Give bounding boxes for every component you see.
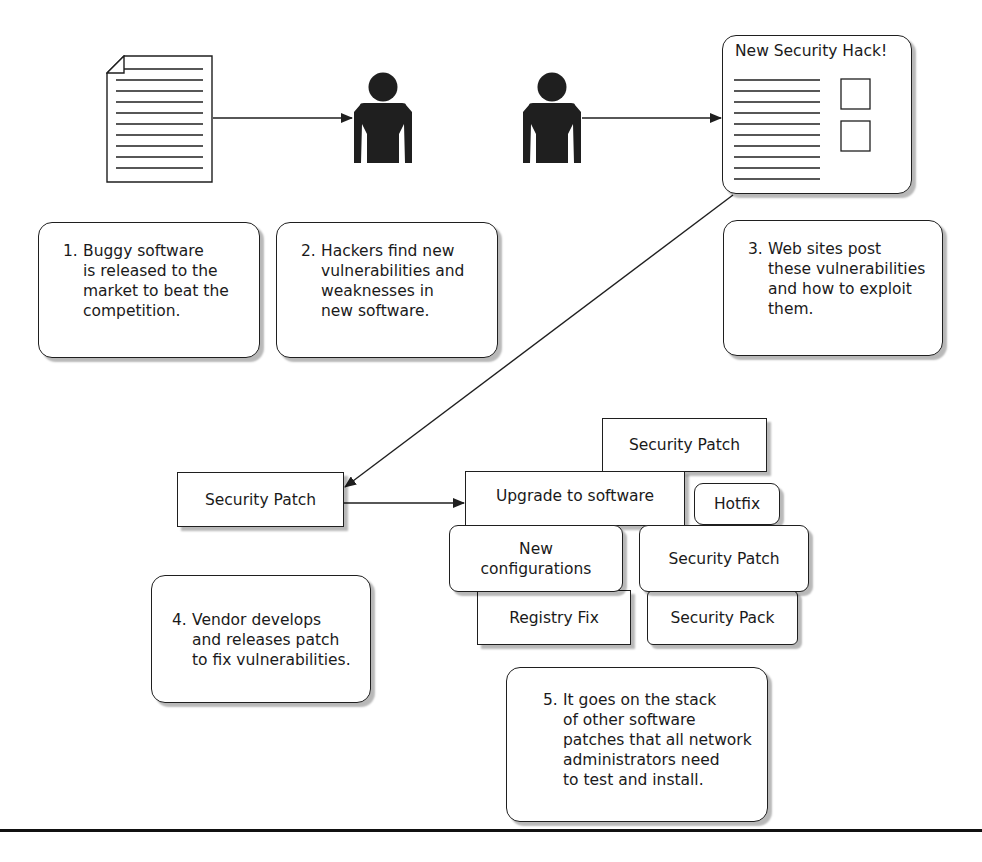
step-text: Hackers find new [321,242,454,260]
stack-registry-fix: Registry Fix [477,590,631,645]
step-text: Vendor develops [192,611,321,629]
step-5-box: 5.It goes on the stack of other software… [506,667,768,822]
step-number: 4. [172,610,192,630]
step-text: them. [748,299,932,319]
step-text: administrators need [543,750,757,770]
step-text: is released to the [63,261,249,281]
person-icon [521,72,583,165]
page-divider [0,829,982,832]
stack-hotfix: Hotfix [694,483,780,525]
step-text: competition. [63,301,249,321]
step-1-box: 1.Buggy software is released to the mark… [38,222,260,358]
step-text: new software. [301,301,487,321]
step-3-box: 3.Web sites post these vulnerabilities a… [723,220,943,356]
step-text: patches that all network [543,730,757,750]
stack-security-patch-mid: Security Patch [639,525,809,592]
stack-label: New [519,539,553,559]
step-text: to test and install. [543,770,757,790]
step-number: 1. [63,241,83,261]
stack-label: configurations [481,559,592,579]
step-text: It goes on the stack [563,691,716,709]
step-text: market to beat the [63,281,249,301]
vendor-security-patch-box: Security Patch [177,472,344,527]
stack-label: Hotfix [714,494,760,514]
step-number: 2. [301,241,321,261]
step-text: to fix vulnerabilities. [172,650,360,670]
stack-label: Registry Fix [509,608,599,628]
stack-new-configurations: New configurations [449,525,623,592]
step-number: 3. [748,239,768,259]
step-2-box: 2.Hackers find new vulnerabilities and w… [276,222,498,358]
stack-label: Upgrade to software [496,486,654,506]
web-page-icon: New Security Hack! [722,35,912,194]
stack-label: Security Pack [670,608,774,628]
step-text: these vulnerabilities [748,259,932,279]
step-text: Web sites post [768,240,881,258]
stack-label: Security Patch [668,549,779,569]
vendor-security-patch-label: Security Patch [205,490,316,510]
step-text: weaknesses in [301,281,487,301]
stack-security-pack: Security Pack [647,590,798,645]
stack-security-patch-top: Security Patch [602,418,767,472]
step-4-box: 4.Vendor develops and releases patch to … [151,575,371,703]
step-text: of other software [543,710,757,730]
step-text: and how to exploit [748,279,932,299]
document-icon [106,55,216,185]
step-text: Buggy software [83,242,204,260]
person-icon [352,72,414,165]
stack-upgrade-to-software: Upgrade to software [465,471,685,526]
stack-label: Security Patch [629,435,740,455]
step-text: vulnerabilities and [301,261,487,281]
step-text: and releases patch [172,630,360,650]
step-number: 5. [543,690,563,710]
web-page-content-lines [723,36,911,193]
